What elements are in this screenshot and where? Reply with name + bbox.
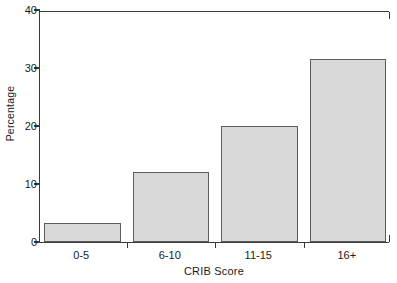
x-tick-mark (215, 242, 216, 248)
bar (221, 126, 298, 242)
x-category-label: 11-15 (220, 249, 297, 261)
x-tick-mark (127, 242, 128, 248)
bar (44, 223, 121, 242)
plot-area: 010203040 (39, 11, 389, 243)
x-category-label: 6-10 (132, 249, 209, 261)
y-tick-label: 20 (25, 121, 37, 132)
x-axis-title: CRIB Score (39, 265, 389, 277)
y-axis-title: Percentage (2, 0, 18, 255)
bar-chart-figure: Percentage 010203040 0-56-1011-1516+ CRI… (0, 0, 397, 283)
y-tick-label: 30 (25, 63, 37, 74)
y-tick-label: 0 (31, 237, 37, 248)
y-tick-label: 40 (25, 5, 37, 16)
x-category-label: 0-5 (43, 249, 120, 261)
bar (310, 59, 387, 242)
bar (133, 172, 210, 242)
x-category-label: 16+ (309, 249, 386, 261)
y-tick-label: 10 (25, 179, 37, 190)
x-tick-mark (304, 242, 305, 248)
